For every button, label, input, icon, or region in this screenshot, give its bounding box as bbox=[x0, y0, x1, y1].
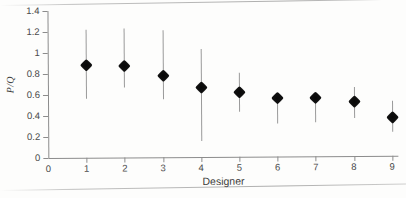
y-tick-label-0.6: 0.6 bbox=[12, 90, 40, 100]
data-marker-designer-6 bbox=[271, 92, 284, 105]
y-axis-line bbox=[47, 11, 49, 158]
data-marker-designer-8 bbox=[348, 96, 361, 109]
x-tick-label-3: 3 bbox=[153, 163, 173, 173]
x-axis-ticks: 0123456789 bbox=[0, 0, 405, 1]
y-tick-0.4 bbox=[43, 116, 48, 117]
x-tick-label-1: 1 bbox=[77, 164, 97, 174]
x-axis-title: Designer bbox=[48, 174, 398, 188]
error-bar-designer-4 bbox=[200, 49, 202, 141]
y-tick-0 bbox=[43, 158, 48, 159]
error-bar-designer-2 bbox=[124, 28, 125, 87]
x-axis-line bbox=[48, 156, 398, 159]
y-tick-label-0.4: 0.4 bbox=[12, 111, 40, 121]
x-tick-label-0: 0 bbox=[38, 164, 58, 174]
data-marker-designer-5 bbox=[233, 86, 246, 99]
y-axis-ticks: 00.20.40.60.811.21.4 bbox=[0, 0, 405, 1]
x-tick-label-8: 8 bbox=[344, 162, 364, 172]
x-tick-label-6: 6 bbox=[268, 162, 288, 172]
y-tick-0.8 bbox=[43, 74, 48, 75]
data-marker-designer-7 bbox=[310, 92, 323, 105]
figure-page: P/Q Designer 00.20.40.60.811.21.4 012345… bbox=[0, 0, 406, 198]
y-tick-1.2 bbox=[43, 32, 48, 33]
data-marker-designer-9 bbox=[386, 111, 399, 124]
y-tick-0.6 bbox=[43, 95, 48, 96]
y-tick-label-0.2: 0.2 bbox=[12, 132, 40, 142]
data-points-group bbox=[0, 0, 405, 1]
y-tick-label-0: 0 bbox=[12, 153, 40, 163]
data-marker-designer-2 bbox=[118, 59, 131, 72]
x-tick-label-9: 9 bbox=[382, 162, 402, 172]
data-marker-designer-3 bbox=[157, 69, 170, 82]
x-tick-label-5: 5 bbox=[229, 163, 249, 173]
data-marker-designer-1 bbox=[80, 58, 93, 71]
y-tick-1.4 bbox=[42, 11, 47, 12]
y-tick-label-0.8: 0.8 bbox=[12, 69, 40, 79]
x-tick-label-7: 7 bbox=[306, 162, 326, 172]
y-tick-label-1: 1 bbox=[12, 48, 40, 58]
plot-area: P/Q Designer 00.20.40.60.811.21.4 012345… bbox=[0, 0, 406, 198]
x-tick-label-4: 4 bbox=[191, 163, 211, 173]
x-tick-label-2: 2 bbox=[115, 163, 135, 173]
y-tick-label-1.4: 1.4 bbox=[11, 6, 39, 16]
data-marker-designer-4 bbox=[195, 81, 208, 94]
y-tick-label-1.2: 1.2 bbox=[12, 27, 40, 37]
y-tick-0.2 bbox=[43, 137, 48, 138]
y-tick-1 bbox=[43, 53, 48, 54]
error-bar-designer-3 bbox=[162, 30, 163, 99]
